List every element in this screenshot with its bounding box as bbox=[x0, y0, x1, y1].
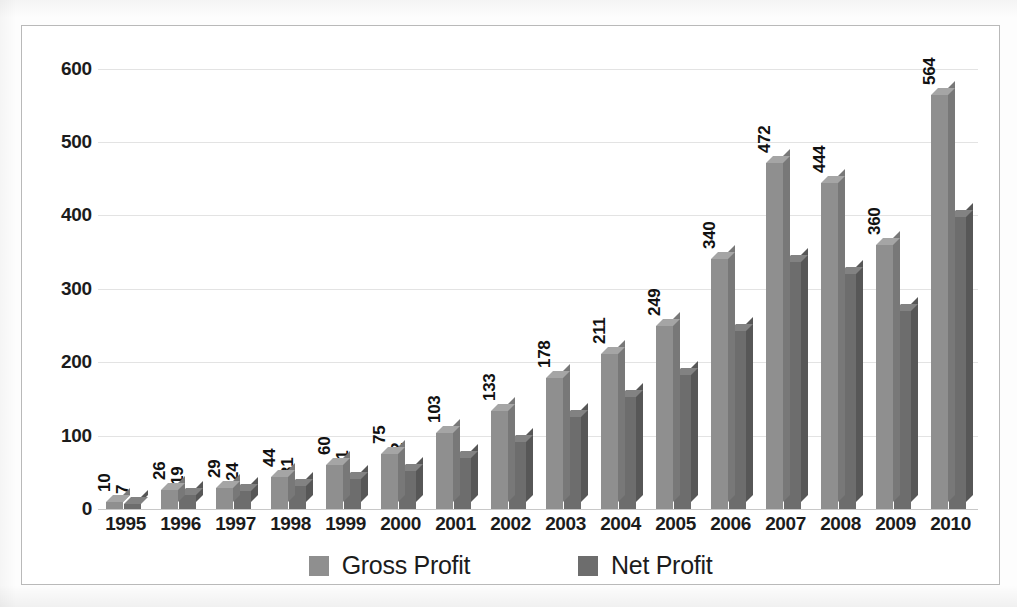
bar-side-face bbox=[893, 231, 900, 502]
y-axis-tick-label: 600 bbox=[38, 58, 92, 80]
bar-value-label: 211 bbox=[590, 318, 610, 345]
bar-side-face bbox=[581, 403, 588, 502]
scanned-page: 0100200300400500600 10726192924443160417… bbox=[0, 0, 1017, 607]
x-axis-tick-label: 1999 bbox=[318, 513, 373, 535]
legend-swatch-icon bbox=[578, 556, 598, 576]
bar-group[interactable]: 2924 bbox=[216, 54, 251, 509]
bar-gross-profit[interactable]: 211 bbox=[601, 354, 618, 509]
bar-group[interactable]: 107 bbox=[106, 54, 141, 509]
x-axis-tick-label: 2004 bbox=[593, 513, 648, 535]
bar-side-face bbox=[801, 248, 808, 502]
bar-gross-profit[interactable]: 60 bbox=[326, 465, 343, 509]
bar-gross-profit[interactable]: 249 bbox=[656, 326, 673, 509]
bar-side-face bbox=[966, 203, 973, 502]
bar-front-face bbox=[326, 465, 343, 509]
x-axis-tick-label: 2010 bbox=[923, 513, 978, 535]
bar-front-face bbox=[491, 411, 508, 509]
legend-item-net-profit[interactable]: Net Profit bbox=[578, 551, 712, 580]
bar-gross-profit[interactable]: 29 bbox=[216, 488, 233, 509]
bar-gross-profit[interactable]: 44 bbox=[271, 477, 288, 509]
bar-gross-profit[interactable]: 340 bbox=[711, 259, 728, 509]
bar-front-face bbox=[106, 502, 123, 509]
bar-side-face bbox=[673, 312, 680, 502]
bar-side-face bbox=[361, 465, 368, 502]
bar-side-face bbox=[746, 317, 753, 502]
bar-value-label: 340 bbox=[700, 222, 720, 249]
x-axis-tick-label: 2000 bbox=[373, 513, 428, 535]
chart-legend: Gross ProfitNet Profit bbox=[22, 551, 999, 580]
x-axis-tick-label: 2009 bbox=[868, 513, 923, 535]
bar-side-face bbox=[636, 383, 643, 502]
bar-gross-profit[interactable]: 103 bbox=[436, 433, 453, 509]
bar-group[interactable]: 178125 bbox=[546, 54, 581, 509]
bar-front-face bbox=[656, 326, 673, 509]
x-axis-tick-label: 2001 bbox=[428, 513, 483, 535]
bar-front-face bbox=[124, 504, 141, 509]
bar-group[interactable]: 7552 bbox=[381, 54, 416, 509]
bar-group[interactable]: 211153 bbox=[601, 54, 636, 509]
y-axis: 0100200300400500600 bbox=[36, 54, 92, 509]
bars-layer: 1072619292444316041755210370133911781252… bbox=[98, 54, 978, 509]
legend-item-gross-profit[interactable]: Gross Profit bbox=[309, 551, 470, 580]
bar-side-face bbox=[618, 340, 625, 502]
bar-side-face bbox=[306, 472, 313, 502]
bar-front-face bbox=[271, 477, 288, 509]
x-axis-tick-label: 2006 bbox=[703, 513, 758, 535]
bar-value-label: 10 bbox=[95, 473, 115, 491]
y-axis-tick-label: 100 bbox=[38, 425, 92, 447]
bar-group[interactable]: 6041 bbox=[326, 54, 361, 509]
bar-front-face bbox=[766, 163, 783, 509]
x-axis: 1995199619971998199920002001200220032004… bbox=[98, 513, 978, 543]
bar-group[interactable]: 472336 bbox=[766, 54, 801, 509]
bar-side-face bbox=[288, 463, 295, 502]
bar-value-label: 178 bbox=[535, 341, 555, 368]
x-axis-tick-label: 1998 bbox=[263, 513, 318, 535]
y-axis-tick-label: 500 bbox=[38, 131, 92, 153]
bar-front-face bbox=[601, 354, 618, 509]
bar-value-label: 249 bbox=[645, 289, 665, 316]
gridline-0 bbox=[98, 509, 978, 510]
bar-group[interactable]: 444320 bbox=[821, 54, 856, 509]
bar-gross-profit[interactable]: 26 bbox=[161, 490, 178, 509]
bar-value-label: 444 bbox=[810, 146, 830, 173]
bar-front-face bbox=[546, 378, 563, 509]
y-axis-tick-label: 0 bbox=[38, 498, 92, 520]
bar-group[interactable]: 249183 bbox=[656, 54, 691, 509]
bar-group[interactable]: 13391 bbox=[491, 54, 526, 509]
bar-value-label: 103 bbox=[425, 396, 445, 423]
bar-group[interactable]: 2619 bbox=[161, 54, 196, 509]
bar-gross-profit[interactable]: 178 bbox=[546, 378, 563, 509]
bar-front-face bbox=[436, 433, 453, 509]
y-axis-tick-label: 200 bbox=[38, 351, 92, 373]
bar-gross-profit[interactable]: 564 bbox=[931, 95, 948, 509]
bar-group[interactable]: 10370 bbox=[436, 54, 471, 509]
bar-value-label: 133 bbox=[480, 374, 500, 401]
bar-gross-profit[interactable]: 10 bbox=[106, 502, 123, 509]
y-axis-tick-label: 400 bbox=[38, 204, 92, 226]
bar-side-face bbox=[948, 81, 955, 502]
bar-group[interactable]: 4431 bbox=[271, 54, 306, 509]
legend-label: Gross Profit bbox=[342, 551, 470, 580]
bar-front-face bbox=[876, 245, 893, 509]
bar-group[interactable]: 564398 bbox=[931, 54, 966, 509]
bar-gross-profit[interactable]: 75 bbox=[381, 454, 398, 509]
bar-group[interactable]: 340242 bbox=[711, 54, 746, 509]
bar-net-profit[interactable]: 7 bbox=[124, 504, 141, 509]
x-axis-tick-label: 2008 bbox=[813, 513, 868, 535]
bar-front-face bbox=[711, 259, 728, 509]
bar-side-face bbox=[911, 297, 918, 502]
bar-gross-profit[interactable]: 360 bbox=[876, 245, 893, 509]
bar-group[interactable]: 360270 bbox=[876, 54, 911, 509]
bar-value-label: 360 bbox=[865, 207, 885, 234]
bar-side-face bbox=[691, 361, 698, 502]
bar-gross-profit[interactable]: 133 bbox=[491, 411, 508, 509]
y-axis-tick-label: 300 bbox=[38, 278, 92, 300]
x-axis-tick-label: 1997 bbox=[208, 513, 263, 535]
bar-side-face bbox=[508, 397, 515, 502]
bar-gross-profit[interactable]: 444 bbox=[821, 183, 838, 509]
bar-value-label: 29 bbox=[205, 459, 225, 477]
bar-gross-profit[interactable]: 472 bbox=[766, 163, 783, 509]
legend-label: Net Profit bbox=[611, 551, 712, 580]
bar-value-label: 26 bbox=[150, 462, 170, 480]
x-axis-tick-label: 1996 bbox=[153, 513, 208, 535]
